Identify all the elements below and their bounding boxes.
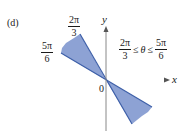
inequality-lower-bound: 2π 3 [119,38,131,61]
fraction-numerator: 5π [41,41,53,53]
shaded-region-lower [106,80,152,124]
inequality-operator: ≤ [133,44,139,55]
x-axis-arrow-icon [164,78,170,83]
fraction-numerator: 2π [68,15,80,27]
diagram-canvas [0,0,186,137]
inequality-upper-bound: 5π 6 [155,38,167,61]
origin-label: 0 [99,84,104,94]
fraction-numerator: 2π [119,38,131,50]
fraction-denominator: 3 [123,50,128,61]
y-axis-label: y [102,14,107,25]
fraction-numerator: 5π [155,38,167,50]
fraction-denominator: 6 [45,53,50,64]
theta-symbol: θ [141,44,146,55]
inequality-operator: ≤ [147,44,153,55]
angle-label-5pi-6: 5π 6 [41,41,53,64]
theta-inequality: 2π 3 ≤ θ ≤ 5π 6 [119,38,167,61]
x-axis-label: x [172,74,177,85]
angle-label-2pi-3: 2π 3 [68,15,80,38]
fraction-denominator: 3 [72,27,77,38]
y-axis-arrow-icon [104,26,109,32]
fraction-denominator: 6 [159,50,164,61]
panel-label: (d) [7,18,19,28]
